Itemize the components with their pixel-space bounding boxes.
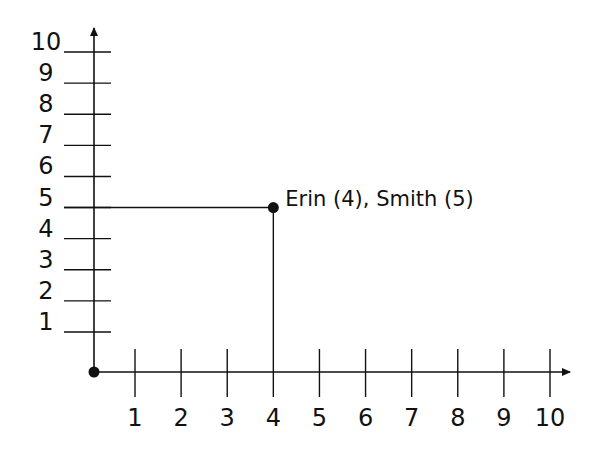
y-tick-label: 4	[38, 215, 53, 243]
data-points	[89, 202, 279, 377]
x-tick-label: 7	[404, 404, 419, 432]
annotations: Erin (4), Smith (5)	[285, 187, 473, 211]
x-tick-label: 1	[127, 404, 142, 432]
x-tick-label: 2	[173, 404, 188, 432]
point-label: Erin (4), Smith (5)	[285, 187, 473, 211]
x-tick-label: 8	[450, 404, 465, 432]
x-tick-label: 5	[312, 404, 327, 432]
y-tick-label: 10	[31, 28, 62, 56]
x-axis-ticks: 12345678910	[127, 349, 565, 432]
x-tick-label: 3	[220, 404, 235, 432]
y-tick-label: 3	[38, 246, 53, 274]
x-tick-label: 6	[358, 404, 373, 432]
y-axis-ticks: 12345678910	[31, 28, 111, 336]
y-tick-label: 7	[38, 121, 53, 149]
y-tick-label: 9	[38, 59, 53, 87]
y-tick-label: 6	[38, 152, 53, 180]
y-tick-label: 5	[38, 184, 53, 212]
data-point	[268, 202, 279, 213]
x-tick-label: 10	[535, 404, 566, 432]
data-point	[89, 367, 100, 378]
y-tick-label: 1	[38, 308, 53, 336]
y-tick-label: 8	[38, 90, 53, 118]
guide-lines	[64, 208, 273, 372]
x-tick-label: 4	[266, 404, 281, 432]
y-tick-label: 2	[38, 277, 53, 305]
coordinate-grid-chart: 12345678910 12345678910 Erin (4), Smith …	[0, 0, 595, 453]
x-tick-label: 9	[496, 404, 511, 432]
